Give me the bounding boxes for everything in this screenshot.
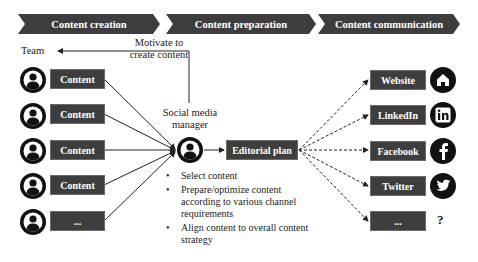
manager-line2: manager bbox=[156, 119, 224, 131]
manager-person-icon bbox=[177, 137, 203, 163]
phase-label: Content communication bbox=[335, 19, 443, 30]
editorial-plan-box: Editorial plan bbox=[226, 140, 298, 160]
phase-label: Content preparation bbox=[195, 19, 287, 30]
person-icon bbox=[20, 173, 46, 199]
channel-website: Website bbox=[370, 70, 426, 90]
facebook-icon bbox=[430, 138, 456, 164]
content-box: Content bbox=[50, 69, 105, 89]
motivate-line1: Motivate to bbox=[126, 37, 192, 49]
content-box-more: ... bbox=[50, 211, 105, 231]
task-item: Align content to overall content strateg… bbox=[164, 222, 314, 246]
content-box: Content bbox=[50, 175, 105, 195]
person-icon bbox=[20, 209, 46, 235]
home-icon bbox=[430, 67, 456, 93]
channel-twitter: Twitter bbox=[370, 176, 426, 196]
manager-tasks-list: Select content Prepare/optimize content … bbox=[164, 170, 314, 248]
twitter-icon bbox=[430, 173, 456, 199]
manager-label: Social media manager bbox=[156, 107, 224, 131]
person-icon bbox=[20, 67, 46, 93]
person-icon bbox=[20, 103, 46, 129]
phase-content-preparation: Content preparation bbox=[166, 14, 316, 34]
phase-content-creation: Content creation bbox=[18, 14, 160, 34]
motivate-line2: create content bbox=[126, 49, 192, 61]
question-mark: ? bbox=[437, 214, 444, 226]
channel-linkedin: LinkedIn bbox=[370, 105, 426, 125]
content-box: Content bbox=[50, 104, 105, 124]
manager-line1: Social media bbox=[156, 107, 224, 119]
task-item: Select content bbox=[164, 170, 314, 182]
phase-label: Content creation bbox=[51, 19, 126, 30]
team-label: Team bbox=[21, 45, 44, 57]
channel-facebook: Facebook bbox=[370, 141, 426, 161]
phase-content-communication: Content communication bbox=[318, 14, 460, 34]
task-item: Prepare/optimize content according to va… bbox=[164, 184, 314, 220]
person-icon bbox=[20, 138, 46, 164]
channel-more: ... bbox=[370, 211, 426, 231]
motivate-label: Motivate to create content bbox=[126, 37, 192, 61]
content-box: Content bbox=[50, 140, 105, 160]
linkedin-icon bbox=[430, 102, 456, 128]
